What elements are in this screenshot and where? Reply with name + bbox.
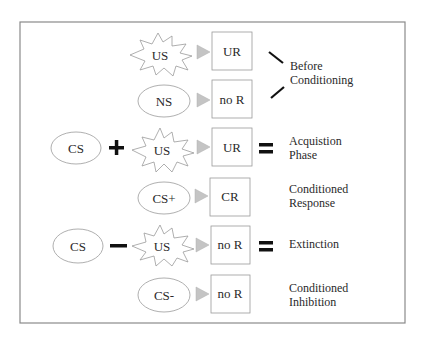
before-label: Before <box>290 59 323 73</box>
nor-label: no R <box>218 237 243 252</box>
conditioning-label: Conditioning <box>290 73 353 87</box>
row-acquisition: CS US UR Acquistion Phase <box>51 128 342 172</box>
equals-icon <box>259 241 273 252</box>
row-conditioned-response: CS+ CR Conditioned Response <box>138 178 348 216</box>
row-ns-nor: NS no R <box>138 80 252 118</box>
inhibition-label: Inhibition <box>289 295 336 309</box>
minus-icon <box>110 244 127 248</box>
ur-label: UR <box>223 44 241 59</box>
acquisition-label: Acquistion <box>289 134 342 148</box>
response-label: Response <box>289 196 335 210</box>
us-label: US <box>154 239 171 254</box>
ur-label: UR <box>223 140 241 155</box>
bracket-line-bottom <box>271 87 284 98</box>
cs-label: CS <box>70 239 86 254</box>
arrow-icon <box>195 189 208 203</box>
us-label: US <box>154 143 171 158</box>
cr-label: CR <box>221 189 239 204</box>
arrow-icon <box>197 93 210 107</box>
row-conditioned-inhibition: CS- no R Conditioned Inhibition <box>138 275 348 313</box>
extinction-label: Extinction <box>289 237 339 251</box>
conditioned-label: Conditioned <box>289 281 348 295</box>
classical-conditioning-diagram: US UR NS no R Before Conditioning CS US … <box>0 0 424 337</box>
row-extinction: CS US no R Extinction <box>53 225 339 266</box>
us-label: US <box>152 48 169 63</box>
arrow-icon <box>197 45 210 59</box>
cs-plus-label: CS+ <box>152 191 175 206</box>
nor-label: no R <box>220 92 245 107</box>
cs-label: CS <box>68 141 84 156</box>
before-conditioning-group: Before Conditioning <box>269 52 353 98</box>
plus-icon <box>109 140 124 155</box>
conditioned-label: Conditioned <box>289 182 348 196</box>
cs-minus-label: CS- <box>154 288 174 303</box>
equals-icon <box>259 143 273 154</box>
arrow-icon <box>196 287 209 301</box>
arrow-icon <box>197 140 210 154</box>
nor-label: no R <box>218 286 243 301</box>
phase-label: Phase <box>289 148 317 162</box>
row-us-ur: US UR <box>130 32 252 76</box>
ns-label: NS <box>156 94 173 109</box>
arrow-icon <box>196 238 209 252</box>
bracket-line-top <box>269 52 283 63</box>
